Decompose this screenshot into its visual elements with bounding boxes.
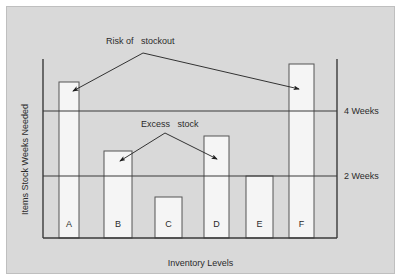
bar-label-B: B — [104, 220, 132, 229]
bar-label-C: C — [155, 220, 182, 229]
figure-frame: A B C D E F 4 Weeks 2 Weeks Risk of stoc… — [6, 6, 395, 274]
annotation-risk-of-stockout: Risk of stockout — [106, 37, 175, 46]
bar-label-A: A — [59, 220, 79, 229]
annotation-excess-stock: Excess stock — [141, 120, 199, 129]
chart-page: A B C D E F 4 Weeks 2 Weeks Risk of stoc… — [0, 0, 401, 280]
bar-C — [155, 197, 182, 238]
bar-label-D: D — [204, 220, 229, 229]
reference-label-2-weeks: 2 Weeks — [344, 172, 379, 181]
reference-label-4-weeks: 4 Weeks — [344, 107, 379, 116]
bar-A — [59, 82, 79, 238]
bar-chart-plot — [7, 7, 394, 273]
bar-label-F: F — [289, 220, 314, 229]
y-axis-title: Items Stock Weeks Needed — [21, 95, 30, 225]
bar-F — [289, 64, 314, 238]
bar-label-E: E — [246, 220, 273, 229]
x-axis-title: Inventory Levels — [7, 259, 394, 268]
